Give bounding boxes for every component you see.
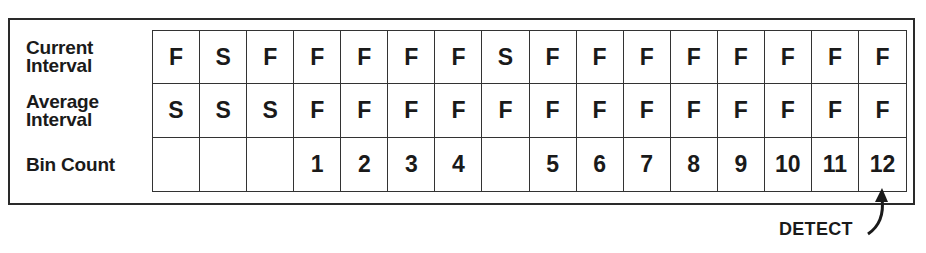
cell-current-interval: S xyxy=(482,31,529,84)
cell-average-interval: F xyxy=(530,84,577,137)
cell-current-interval: F xyxy=(718,31,765,84)
cell-average-interval: F xyxy=(765,84,812,137)
cell-current-interval: F xyxy=(624,31,671,84)
interval-table: FSFFFFFSFFFFFFFFSSSFFFFFFFFFFFFF12345678… xyxy=(152,30,907,192)
cell-average-interval: F xyxy=(435,84,482,137)
cell-bin-count: 2 xyxy=(341,138,388,191)
detect-label: DETECT xyxy=(779,219,853,240)
cell-current-interval: F xyxy=(577,31,624,84)
cell-current-interval: F xyxy=(294,31,341,84)
cell-current-interval: F xyxy=(765,31,812,84)
cell-average-interval: F xyxy=(577,84,624,137)
cell-bin-count: 4 xyxy=(435,138,482,191)
cell-average-interval: F xyxy=(671,84,718,137)
cell-average-interval: F xyxy=(812,84,859,137)
cell-average-interval: S xyxy=(200,84,247,137)
label-line: Interval xyxy=(26,109,92,130)
cell-bin-count: 10 xyxy=(765,138,812,191)
detect-arrow-icon xyxy=(862,186,892,238)
cell-average-interval: F xyxy=(624,84,671,137)
cell-average-interval: F xyxy=(482,84,529,137)
label-current-interval: CurrentInterval xyxy=(26,30,151,84)
cell-average-interval: F xyxy=(294,84,341,137)
cell-current-interval: F xyxy=(859,31,906,84)
cell-bin-count xyxy=(247,138,294,191)
cell-average-interval: F xyxy=(859,84,906,137)
cell-current-interval: S xyxy=(200,31,247,84)
cell-current-interval: F xyxy=(812,31,859,84)
cell-current-interval: F xyxy=(388,31,435,84)
cell-bin-count: 12 xyxy=(859,138,906,191)
cell-current-interval: F xyxy=(341,31,388,84)
cell-average-interval: F xyxy=(341,84,388,137)
cell-average-interval: F xyxy=(718,84,765,137)
cell-current-interval: F xyxy=(530,31,577,84)
cell-bin-count: 5 xyxy=(530,138,577,191)
cell-current-interval: F xyxy=(671,31,718,84)
cell-average-interval: S xyxy=(153,84,200,137)
cell-average-interval: S xyxy=(247,84,294,137)
label-line: Interval xyxy=(26,55,92,76)
cell-bin-count: 9 xyxy=(718,138,765,191)
cell-average-interval: F xyxy=(388,84,435,137)
cell-current-interval: F xyxy=(153,31,200,84)
cell-bin-count: 11 xyxy=(812,138,859,191)
cell-current-interval: F xyxy=(435,31,482,84)
label-average-interval: AverageInterval xyxy=(26,84,151,138)
cell-bin-count: 6 xyxy=(577,138,624,191)
cell-current-interval: F xyxy=(247,31,294,84)
cell-bin-count xyxy=(153,138,200,191)
cell-bin-count: 1 xyxy=(294,138,341,191)
cell-bin-count xyxy=(200,138,247,191)
cell-bin-count xyxy=(482,138,529,191)
cell-bin-count: 8 xyxy=(671,138,718,191)
cell-bin-count: 3 xyxy=(388,138,435,191)
cell-bin-count: 7 xyxy=(624,138,671,191)
label-bin-count: Bin Count xyxy=(26,138,151,192)
